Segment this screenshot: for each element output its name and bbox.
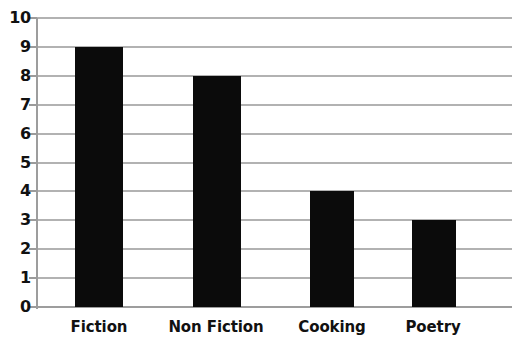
bar-cooking <box>310 191 354 307</box>
y-axis-label-10: 10 <box>0 10 31 26</box>
y-axis-label-5: 5 <box>0 155 31 171</box>
bar-non-fiction <box>193 76 241 307</box>
y-axis-label-9: 9 <box>0 39 31 55</box>
y-axis-label-2: 2 <box>0 241 31 257</box>
y-axis-label-0: 0 <box>0 299 31 315</box>
plot-area: 109876543210FictionNon FictionCookingPoe… <box>0 0 516 346</box>
y-axis-label-8: 8 <box>0 68 31 84</box>
y-axis-label-4: 4 <box>0 183 31 199</box>
gridline-10 <box>36 17 512 19</box>
bar-fiction <box>75 47 123 307</box>
y-axis-line <box>36 18 38 309</box>
y-axis-label-6: 6 <box>0 126 31 142</box>
x-axis-label-poetry: Poetry <box>353 320 513 335</box>
bar-poetry <box>412 220 456 307</box>
y-axis-label-1: 1 <box>0 270 31 286</box>
bar-chart: 109876543210FictionNon FictionCookingPoe… <box>0 0 516 346</box>
y-axis-label-3: 3 <box>0 212 31 228</box>
y-axis-label-7: 7 <box>0 97 31 113</box>
